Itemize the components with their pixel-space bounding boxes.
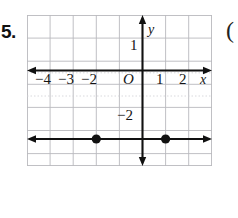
x-tick-label-1: 1 [156,72,164,87]
data-point-neg2-neg3 [92,134,101,143]
x-axis-label: x [200,72,206,87]
graph-svg [27,15,212,166]
answer-paren-fragment: ( [226,18,234,42]
x-tick-label-neg2: −2 [81,72,97,87]
y-axis-label: y [148,22,154,37]
origin-label: O [123,72,134,87]
data-point-1-neg3 [161,134,170,143]
y-tick-label-neg2: −2 [117,108,133,123]
x-tick-label-2: 2 [179,72,187,87]
problem-number: 5. [1,22,16,41]
x-tick-label-neg3: −3 [58,72,74,87]
x-tick-label-neg4: −4 [35,72,51,87]
y-tick-label-1: 1 [130,38,138,53]
coordinate-graph: −4 −3 −2 O 1 2 x 1 −2 y [27,15,212,166]
